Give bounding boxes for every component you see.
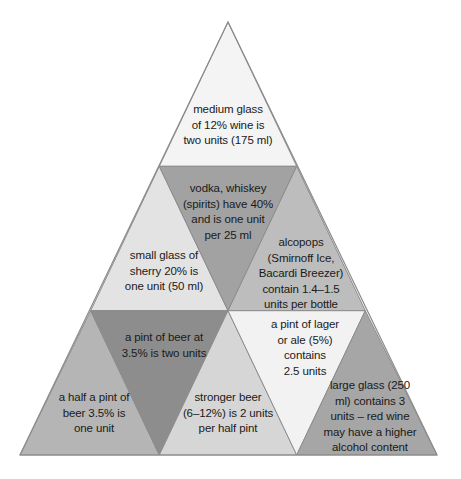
alcohol-units-triangle-diagram: medium glass of 12% wine is two units (1…: [0, 0, 461, 479]
cell-shape-medium-glass-wine: [159, 22, 296, 166]
triangle-graphic: [0, 0, 461, 479]
